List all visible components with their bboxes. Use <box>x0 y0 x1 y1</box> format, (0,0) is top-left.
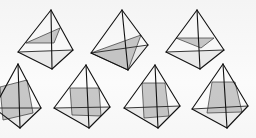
cross-section-triangle <box>176 38 214 48</box>
tetrahedron-b2 <box>54 65 110 128</box>
cross-section-quadrilateral <box>70 88 101 116</box>
edge <box>18 10 51 52</box>
edge <box>166 10 197 52</box>
top-row <box>18 10 224 70</box>
tetrahedron-t3 <box>166 10 224 69</box>
tetrahedron-t1 <box>18 10 73 69</box>
cross-section-quadrilateral <box>0 80 33 120</box>
tetrahedron-b4 <box>192 64 248 128</box>
tetrahedron-t2 <box>91 10 148 70</box>
bottom-row <box>0 64 248 128</box>
tetrahedra-cross-sections-diagram <box>0 0 256 138</box>
edge <box>51 10 73 50</box>
diagram-canvas <box>0 0 256 138</box>
tetrahedron-b1 <box>0 64 41 128</box>
cross-section-quadrilateral <box>142 83 169 118</box>
tetrahedron-b3 <box>124 65 180 128</box>
